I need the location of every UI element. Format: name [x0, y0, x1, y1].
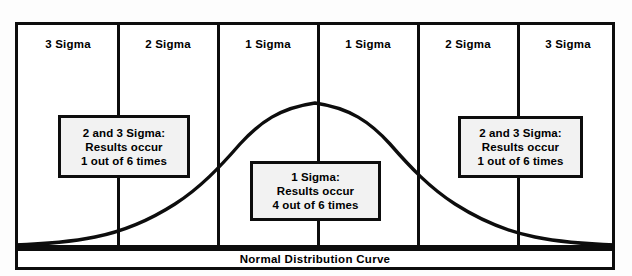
- callout-right-line-3: 1 out of 6 times: [478, 154, 564, 168]
- callout-center-line-1: 1 Sigma:: [291, 170, 340, 184]
- callout-center-one-sigma: 1 Sigma: Results occur 4 out of 6 times: [250, 161, 381, 221]
- callout-right-line-2: Results occur: [482, 140, 559, 154]
- callout-right-tails: 2 and 3 Sigma: Results occur 1 out of 6 …: [458, 116, 583, 178]
- band-label-minus-2-sigma: 2 Sigma: [118, 38, 218, 50]
- callout-left-line-2: Results occur: [85, 140, 162, 154]
- callout-left-tails: 2 and 3 Sigma: Results occur 1 out of 6 …: [58, 115, 190, 178]
- normal-distribution-diagram: 3 Sigma 2 Sigma 1 Sigma 1 Sigma 2 Sigma …: [0, 0, 632, 276]
- band-label-minus-1-sigma: 1 Sigma: [218, 38, 318, 50]
- band-label-plus-3-sigma: 3 Sigma: [518, 38, 618, 50]
- callout-left-line-3: 1 out of 6 times: [81, 154, 167, 168]
- band-label-minus-3-sigma: 3 Sigma: [18, 38, 118, 50]
- curve-caption-text: Normal Distribution Curve: [240, 253, 391, 265]
- callout-right-line-1: 2 and 3 Sigma:: [479, 126, 562, 140]
- band-divider-2: [217, 25, 220, 245]
- callout-center-line-2: Results occur: [277, 184, 354, 198]
- band-label-plus-2-sigma: 2 Sigma: [418, 38, 518, 50]
- curve-caption-bar: Normal Distribution Curve: [15, 248, 615, 270]
- callout-left-line-1: 2 and 3 Sigma:: [83, 126, 166, 140]
- callout-center-line-3: 4 out of 6 times: [273, 198, 359, 212]
- band-label-plus-1-sigma: 1 Sigma: [318, 38, 418, 50]
- band-divider-4: [417, 25, 420, 245]
